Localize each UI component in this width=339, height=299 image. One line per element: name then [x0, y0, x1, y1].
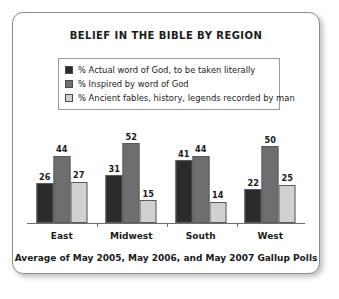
chart-card: BELIEF IN THE BIBLE BY REGION % Actual w… [12, 12, 320, 274]
legend-item-label: % Ancient fables, history, legends recor… [78, 94, 295, 102]
bar [262, 146, 279, 223]
x-axis-label-west: West [236, 231, 306, 241]
plot-area: 264427315215414414225025 [27, 131, 305, 223]
bar-value-label: 52 [126, 133, 137, 141]
bar-value-label: 15 [143, 190, 154, 198]
bar [279, 185, 296, 223]
chart-footnote: Average of May 2005, May 2006, and May 2… [13, 253, 319, 263]
x-axis-tick [97, 223, 98, 227]
bar-slot: 26 [36, 131, 53, 223]
bar [106, 175, 123, 223]
bar-value-label: 50 [265, 136, 276, 144]
x-axis-label-midwest: Midwest [97, 231, 167, 241]
bar-value-label: 25 [282, 174, 293, 182]
x-axis-label-south: South [166, 231, 236, 241]
bar-slot: 50 [262, 131, 279, 223]
bar [140, 200, 157, 223]
bar [123, 143, 140, 223]
bar-group-midwest: 315215 [97, 131, 167, 223]
bar-value-label: 44 [195, 145, 206, 153]
bar-group-bars: 225025 [245, 131, 296, 223]
bar-slot: 44 [53, 131, 70, 223]
bar-value-label: 41 [178, 150, 189, 158]
bar-slot: 31 [106, 131, 123, 223]
legend-item: % Actual word of God, to be taken litera… [65, 63, 273, 77]
bar-slot: 44 [192, 131, 209, 223]
bar-value-label: 44 [56, 145, 67, 153]
bar [192, 156, 209, 223]
legend-swatch-icon [65, 94, 73, 102]
bar-value-label: 14 [212, 191, 223, 199]
bar [36, 183, 53, 223]
legend-swatch-icon [65, 80, 73, 88]
bar-group-bars: 264427 [36, 131, 87, 223]
chart-title: BELIEF IN THE BIBLE BY REGION [13, 30, 319, 41]
legend-item-label: % Inspired by word of God [78, 80, 189, 88]
bar-group-east: 264427 [27, 131, 97, 223]
x-axis-label-east: East [27, 231, 97, 241]
x-axis-line [27, 223, 305, 224]
bar [175, 160, 192, 223]
bar-value-label: 27 [73, 171, 84, 179]
bar-value-label: 22 [248, 179, 259, 187]
bar-slot: 27 [70, 131, 87, 223]
bar-group-bars: 315215 [106, 131, 157, 223]
bar-group-south: 414414 [166, 131, 236, 223]
chart-legend: % Actual word of God, to be taken litera… [58, 58, 280, 110]
bar [245, 189, 262, 223]
bar-groups: 264427315215414414225025 [27, 131, 305, 223]
bar-value-label: 26 [39, 173, 50, 181]
bar [53, 156, 70, 223]
bar-slot: 14 [209, 131, 226, 223]
bar-group-west: 225025 [236, 131, 306, 223]
x-axis-tick [167, 223, 168, 227]
legend-item: % Ancient fables, history, legends recor… [65, 91, 273, 105]
bar-slot: 25 [279, 131, 296, 223]
bar-slot: 15 [140, 131, 157, 223]
bar-value-label: 31 [109, 165, 120, 173]
x-axis-category-labels: EastMidwestSouthWest [27, 231, 305, 241]
bar-slot: 22 [245, 131, 262, 223]
bar [70, 182, 87, 223]
bar-group-bars: 414414 [175, 131, 226, 223]
legend-item-label: % Actual word of God, to be taken litera… [78, 66, 255, 74]
x-axis-tick [237, 223, 238, 227]
bar-slot: 41 [175, 131, 192, 223]
bar [209, 202, 226, 223]
bar-slot: 52 [123, 131, 140, 223]
legend-swatch-icon [65, 66, 73, 74]
legend-item: % Inspired by word of God [65, 77, 273, 91]
